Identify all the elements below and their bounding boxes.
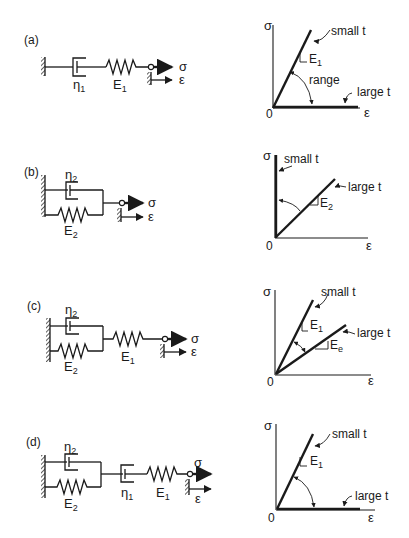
origin-label: 0 [266, 239, 273, 253]
sigma-label: σ [194, 455, 202, 470]
eta1-label: η1 [121, 485, 133, 502]
epsilon-label: ε [148, 209, 154, 224]
small-t-label: small t [321, 285, 356, 299]
kelvin-voigt-model: η2 E2 σ ε [41, 167, 156, 240]
slope-label: E1 [310, 454, 323, 470]
small-t-pointer [314, 30, 330, 41]
x-axis-label: ε [368, 373, 374, 388]
panel-a: (a) η1 E1 σ ε [24, 18, 391, 121]
e2-label: E2 [64, 223, 78, 240]
small-t-label: small t [331, 24, 366, 38]
slope-label: E1 [309, 52, 322, 68]
e1-label: E1 [121, 349, 135, 366]
origin-label: 0 [267, 375, 274, 389]
large-t-pointer [344, 496, 352, 506]
large-t-label: large t [357, 326, 391, 340]
epsilon-label: ε [179, 72, 185, 87]
large-t-label: large t [357, 85, 391, 99]
graph-c: σ ε 0 E1 Ee small t large t [263, 284, 391, 389]
standard-linear-solid-model: η2 E2 E1 σ ε [46, 302, 199, 376]
panel-c: (c) η2 E2 E1 σ ε σ ε 0 [27, 284, 391, 389]
spring-e2 [45, 480, 101, 494]
viscoelastic-models-figure: (a) η1 E1 σ ε [0, 0, 409, 538]
sigma-label: σ [148, 195, 156, 210]
eta2-label: η2 [64, 439, 76, 456]
small-t-pointer [279, 166, 292, 171]
eta2-label: η2 [65, 302, 77, 319]
spring-e2 [50, 344, 103, 358]
large-t-pointer [335, 186, 346, 187]
burgers-model: η2 E2 η1 E1 σ ε [41, 439, 211, 513]
y-axis-label: σ [264, 18, 272, 33]
small-t-curve [277, 434, 313, 509]
small-t-label: small t [284, 152, 319, 166]
transition-arc [294, 477, 314, 507]
graph-b: σ ε 0 E2 small t large t [263, 148, 382, 253]
e2-label: E2 [64, 359, 78, 376]
dashpot-eta1 [73, 58, 106, 76]
transition-arc [294, 342, 305, 352]
e2-label: E2 [64, 496, 78, 513]
panel-label-a: (a) [24, 33, 39, 47]
slope-label: E2 [320, 196, 333, 212]
panel-label-b: (b) [24, 165, 39, 179]
large-t-pointer [343, 332, 355, 334]
load-point [162, 336, 167, 341]
eta2-label: η2 [65, 167, 77, 184]
spring-e1 [147, 467, 187, 481]
spring-e1 [103, 332, 162, 346]
large-t-label: large t [355, 489, 389, 503]
maxwell-model: η1 E1 σ ε [41, 57, 187, 94]
graph-d: σ ε 0 E1 small t large t [264, 418, 389, 525]
large-t-pointer [345, 93, 352, 103]
eta1-label: η1 [73, 77, 85, 94]
slope-label-top: E1 [310, 318, 323, 334]
spring-e2 [45, 208, 103, 222]
x-axis-label: ε [368, 510, 374, 525]
epsilon-label: ε [195, 491, 201, 506]
load-point [119, 200, 124, 205]
panel-b: (b) η2 E2 σ ε σ ε [24, 148, 382, 253]
y-axis-label: σ [264, 418, 272, 433]
epsilon-label: ε [191, 344, 197, 359]
graph-a: σ ε 0 E1 small t range large t [264, 18, 391, 121]
e1-label: E1 [113, 77, 127, 94]
panel-label-d: (d) [26, 435, 41, 449]
origin-label: 0 [266, 107, 273, 121]
range-label: range [309, 73, 340, 87]
panel-label-c: (c) [27, 299, 41, 313]
spring-e1 [106, 60, 148, 74]
y-axis-label: σ [263, 148, 271, 163]
small-t-pointer [315, 434, 330, 446]
slope-triangle-top [302, 323, 308, 331]
panel-d: (d) η2 E2 η1 E1 σ ε [26, 418, 389, 525]
slope-label-bottom: Ee [330, 338, 343, 354]
origin-label: 0 [268, 511, 275, 525]
small-t-label: small t [332, 427, 367, 441]
load-point [187, 471, 192, 476]
large-t-label: large t [348, 180, 382, 194]
e1-label: E1 [156, 485, 170, 502]
x-axis-label: ε [366, 238, 372, 253]
slope-triangle [300, 53, 307, 62]
x-axis-label: ε [364, 105, 370, 120]
y-axis-label: σ [263, 284, 271, 299]
small-t-curve [276, 300, 313, 374]
small-t-curve [273, 30, 311, 108]
transition-arc [279, 200, 300, 211]
load-point [148, 64, 153, 69]
